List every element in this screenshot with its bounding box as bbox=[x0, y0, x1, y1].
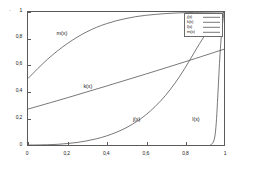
legend-entry: m(x) bbox=[187, 30, 220, 35]
legend: j(x) k(x) l(x) m(x) bbox=[184, 13, 223, 37]
x-tickmark bbox=[224, 142, 225, 145]
legend-line-swatch bbox=[203, 20, 220, 25]
y-tickmark bbox=[28, 145, 31, 146]
x-tick-label: 0,4 bbox=[95, 151, 117, 156]
legend-line-swatch bbox=[203, 25, 220, 30]
x-tick-label: 0,2 bbox=[56, 151, 78, 156]
curve-label-k: k(x) bbox=[83, 83, 92, 89]
y-tick-label: 0,2 bbox=[0, 115, 22, 120]
legend-line-swatch bbox=[203, 30, 220, 35]
x-tick-label: 0,6 bbox=[135, 151, 157, 156]
x-tick-label: 0,8 bbox=[174, 151, 196, 156]
legend-line-swatch bbox=[203, 15, 220, 20]
corner-mark: · bbox=[9, 7, 11, 13]
y-tick-label: 0,8 bbox=[0, 34, 22, 39]
legend-label: m(x) bbox=[187, 30, 202, 35]
y-tick-label: 0,4 bbox=[0, 88, 22, 93]
plot-area: j(x) k(x) l(x) m(x) j(x) k(x) l(x) bbox=[27, 11, 225, 146]
curve-label-m: m(x) bbox=[57, 30, 68, 36]
x-tick-label: 0 bbox=[16, 151, 38, 156]
y-tick-label: 1 bbox=[0, 8, 22, 13]
y-tick-label: 0,6 bbox=[0, 61, 22, 66]
y-tick-label: 0 bbox=[0, 142, 22, 147]
curve-label-j: j(x) bbox=[133, 116, 140, 122]
x-tick-label: 1 bbox=[214, 151, 236, 156]
chart-figure: 1 0,8 0,6 0,4 0,2 0 0 0,2 0,4 0,6 0,8 1 … bbox=[0, 0, 254, 169]
curve-k bbox=[28, 49, 224, 109]
curve-label-l: l(x) bbox=[192, 116, 199, 122]
